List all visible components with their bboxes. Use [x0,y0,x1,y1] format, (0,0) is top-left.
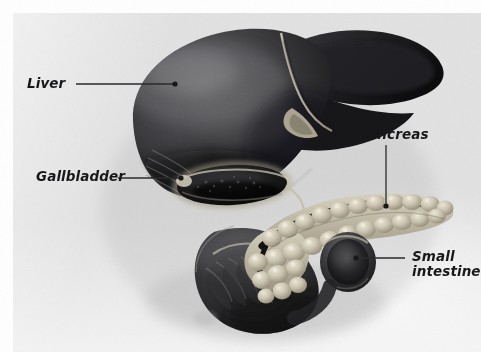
leader-gallbladder [118,175,184,180]
label-pancreas: Pancreas [359,127,429,142]
illustration-figure: Liver Gallbladder Pancreas Smallintestin… [0,0,481,352]
label-small-intestine-line2: intestine [412,263,481,279]
label-small-intestine: Smallintestine [412,249,481,279]
label-gallbladder: Gallbladder [36,169,125,184]
label-liver: Liver [27,76,65,91]
leader-liver [76,81,178,86]
label-small-intestine-line1: Small [412,248,455,264]
leader-pancreas [383,145,388,209]
leader-small-intestine [353,255,405,260]
